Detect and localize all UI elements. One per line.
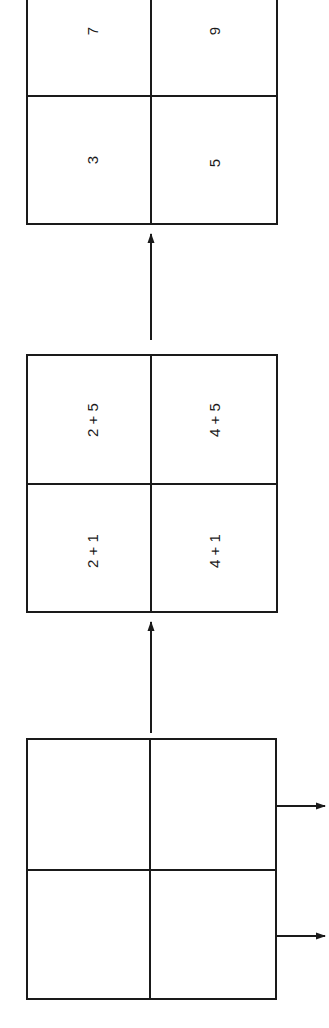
sum-cell-4-plus-1: 4 + 1 [206,534,223,568]
result-cell-3: 3 [84,156,101,164]
result-cell-5: 5 [206,159,223,167]
result-grid: 3 7 5 9 [27,0,277,224]
input-grid [27,739,276,999]
sum-expression-grid: 2 + 1 2 + 5 4 + 1 4 + 5 [27,355,277,612]
result-cell-9: 9 [206,27,223,35]
sum-cell-4-plus-5: 4 + 5 [206,403,223,437]
sum-cell-2-plus-1: 2 + 1 [84,534,101,568]
sum-cell-2-plus-5: 2 + 5 [84,403,101,437]
diagram-canvas: 3 7 5 9 2 + 1 2 + 5 4 + 1 4 + 5 [0,0,329,1028]
result-cell-7: 7 [84,27,101,35]
